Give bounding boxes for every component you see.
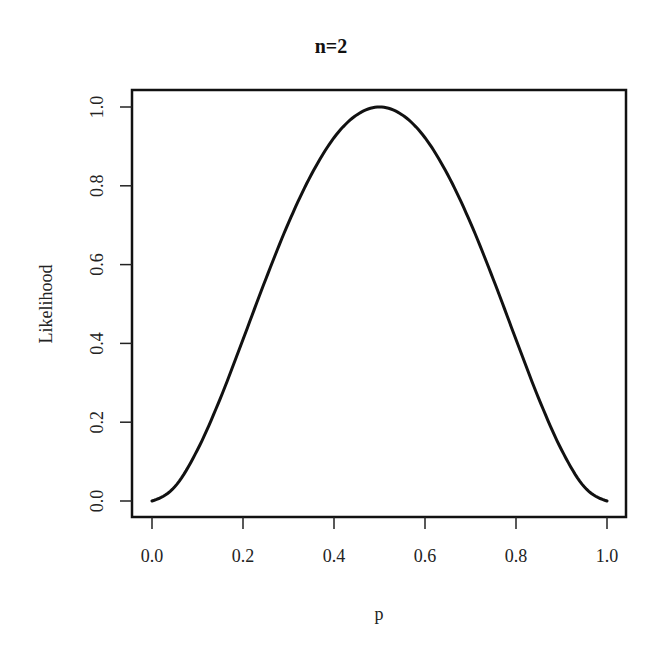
x-tick-label: 0.8 xyxy=(505,546,528,566)
x-tick-label: 1.0 xyxy=(596,546,619,566)
likelihood-chart: n=2 0.00.20.40.60.81.0 0.00.20.40.60.81.… xyxy=(0,0,662,657)
y-axis-label: Likelihood xyxy=(36,265,56,344)
x-tick-label: 0.0 xyxy=(141,546,164,566)
x-tick-label: 0.4 xyxy=(323,546,346,566)
y-tick-label: 0.4 xyxy=(87,332,107,355)
y-tick-label: 0.6 xyxy=(87,253,107,276)
chart-title: n=2 xyxy=(315,35,348,57)
x-axis: 0.00.20.40.60.81.0 xyxy=(141,517,619,566)
x-tick-label: 0.6 xyxy=(414,546,437,566)
x-axis-label: p xyxy=(375,604,384,624)
y-tick-label: 0.8 xyxy=(87,175,107,198)
y-tick-label: 0.0 xyxy=(87,490,107,513)
x-tick-label: 0.2 xyxy=(232,546,255,566)
plot-frame xyxy=(132,90,626,517)
y-tick-label: 1.0 xyxy=(87,96,107,119)
y-tick-label: 0.2 xyxy=(87,411,107,434)
y-axis: 0.00.20.40.60.81.0 xyxy=(87,96,132,513)
likelihood-curve xyxy=(152,107,607,501)
